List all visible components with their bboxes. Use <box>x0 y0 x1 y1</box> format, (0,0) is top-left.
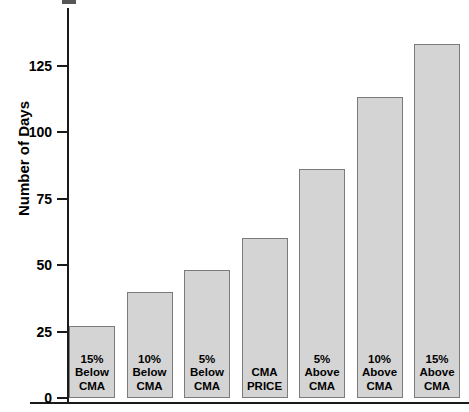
y-axis-tick-label-text: 125 <box>0 58 52 74</box>
bar: 15%AboveCMA <box>414 44 460 398</box>
y-axis-tick-label: 100 <box>0 124 52 140</box>
bar-category-label: CMA <box>251 366 277 380</box>
bar-category-label: CMA <box>136 380 162 394</box>
bar: 10%AboveCMA <box>357 97 403 398</box>
bar-category-label: 15% <box>425 353 448 367</box>
bar-category-label: 15% <box>80 353 103 367</box>
y-axis-tick-label: 50 <box>0 257 52 273</box>
y-axis-tick-label: 25 <box>0 324 52 340</box>
y-axis-tick-label: 75 <box>0 191 52 207</box>
y-axis-tick <box>57 131 68 133</box>
bar-category-label: 10% <box>368 353 391 367</box>
y-axis-tick <box>57 198 68 200</box>
y-axis-title: Number of Days <box>15 84 32 234</box>
y-axis-tick-label-text: 25 <box>0 324 52 340</box>
y-axis-tick-label-text: 75 <box>0 191 52 207</box>
y-axis-tick <box>57 65 68 67</box>
y-axis-tick-label-text: 0 <box>0 390 52 406</box>
bar-category-label: CMA <box>194 380 220 394</box>
y-axis-tick-label: 0 <box>0 390 52 406</box>
bar-category-label: Above <box>419 366 454 380</box>
y-axis-tick-label-text: 50 <box>0 257 52 273</box>
y-axis-tick-label: 125 <box>0 58 52 74</box>
bar: 15%BelowCMA <box>69 326 115 398</box>
bar-category-label: 5% <box>199 353 216 367</box>
y-axis-tick <box>57 331 68 333</box>
bar: 5%AboveCMA <box>299 169 345 398</box>
plot-area: 15%BelowCMA10%BelowCMA5%BelowCMACMAPRICE… <box>69 8 467 403</box>
bar: CMAPRICE <box>242 238 288 398</box>
bar-category-label: Below <box>75 366 109 380</box>
bar: 5%BelowCMA <box>184 270 230 398</box>
bar-category-label: 5% <box>314 353 331 367</box>
bar-category-label: CMA <box>366 380 392 394</box>
bar-category-label: Below <box>190 366 224 380</box>
bar-category-label: Below <box>133 366 167 380</box>
bar-category-label: CMA <box>79 380 105 394</box>
cropped-title-remnant <box>62 0 76 4</box>
y-axis-tick <box>57 264 68 266</box>
bar-category-label: 10% <box>138 353 161 367</box>
bar: 10%BelowCMA <box>127 292 173 398</box>
bar-category-label: CMA <box>309 380 335 394</box>
bar-category-label: Above <box>362 366 397 380</box>
bar-category-label: Above <box>304 366 339 380</box>
y-axis-tick <box>57 397 68 399</box>
y-axis-tick-label-text: 100 <box>0 124 52 140</box>
bar-category-label: CMA <box>424 380 450 394</box>
bar-chart: Number of Days 0255075100125 15%BelowCMA… <box>0 0 469 412</box>
bar-category-label: PRICE <box>247 380 282 394</box>
